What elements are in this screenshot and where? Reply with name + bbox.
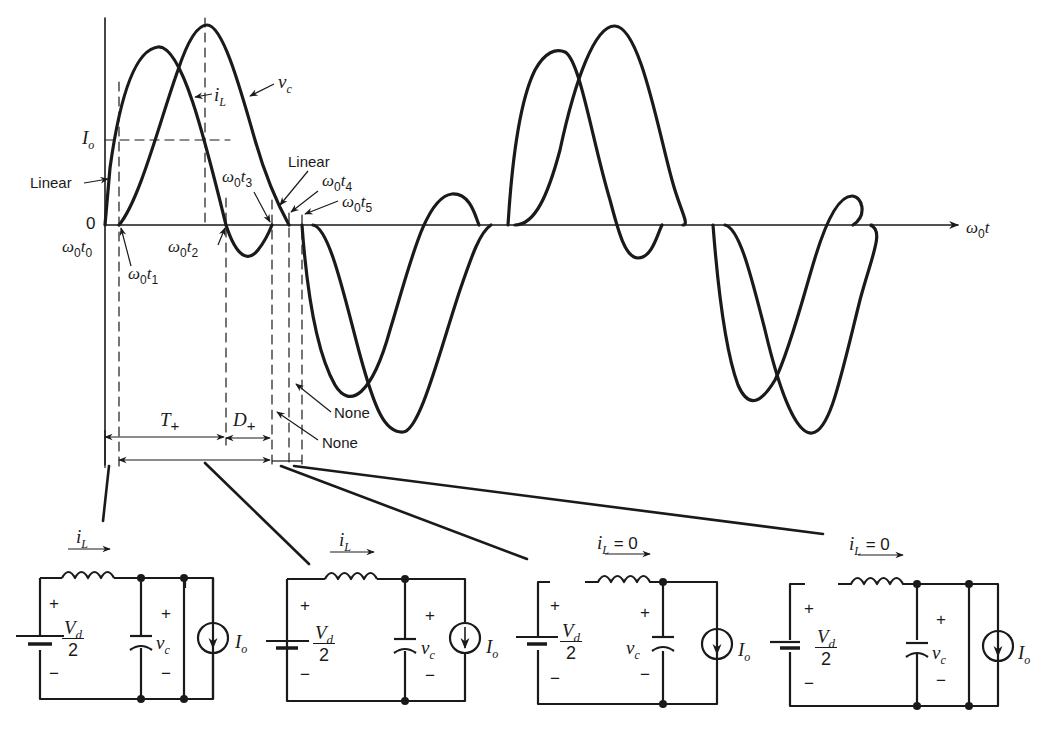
circuit-3-vc-minus: − [640,666,650,683]
circuit-4-plus: + [804,600,814,617]
circuit-3 [516,554,732,704]
circuit-2-minus: − [300,666,310,683]
circuit-2-source-value: Vd2 [313,623,335,664]
circuit-4-vc-minus: − [936,672,946,689]
marker-label-t0: ω0t0 [62,238,92,255]
time-axis-label: ω0t [966,219,989,236]
circuit-2 [266,552,480,701]
circuit-3-vc-plus: + [640,604,650,621]
circuit-3-vc-label: vc [626,638,640,657]
marker-label-t2: ω0t2 [168,238,198,255]
circuit-3-current-label: iL = 0 [597,533,638,552]
circuit-2-vc-label: vc [421,638,435,657]
circuit-3-minus: − [550,670,560,687]
connector-circuit-2 [205,463,309,564]
linear-label-1: Linear [30,175,72,190]
vc-label: vc [278,72,292,91]
none-label-2: None [322,435,358,450]
waveform-diagram [0,0,1056,729]
circuit-3-plus: + [550,597,560,614]
circuit-4-vc-label: vc [932,643,946,662]
vc-curve-3 [515,26,685,225]
circuit-1-minus: − [49,665,59,682]
circuit-2-current-label: iL [339,530,351,549]
iL-curve-4 [713,196,862,401]
circuit-1-vc-minus: − [161,665,171,682]
circuit-4-io-label: Io [1018,643,1030,662]
vc-curve-2 [313,225,491,432]
circuit-4-current-label: iL = 0 [849,534,890,553]
circuit-1-vc-plus: + [161,605,171,622]
iL-curve-3 [508,51,662,258]
marker-label-t4: ω0t4 [322,172,352,189]
circuit-1 [16,549,228,699]
marker-label-t3: ω0t3 [222,168,252,185]
marker-label-t1: ω0t1 [128,265,158,282]
marker-label-t5: ω0t5 [342,193,372,210]
circuit-4-vc-plus: + [936,611,946,628]
iL-label: iL [214,85,226,104]
circuit-1-io-label: Io [235,632,247,651]
zero-label: 0 [86,215,95,232]
circuit-2-vc-plus: + [425,607,435,624]
circuit-1-vc-label: vc [156,633,170,652]
interval-T-plus: T+ [160,410,179,429]
linear-label-2: Linear [288,154,330,169]
circuit-4-minus: − [804,675,814,692]
none-label-1: None [334,405,370,420]
circuit-2-io-label: Io [486,637,498,656]
interval-D-plus: D+ [233,410,256,429]
circuit-2-plus: + [300,597,310,614]
circuit-4-source-value: Vd2 [815,627,837,668]
vc-curve-4 [725,225,877,433]
circuit-1-plus: + [49,595,59,612]
connector-circuit-1 [103,466,109,521]
circuit-1-current-label: iL [76,527,88,546]
circuit-3-source-value: Vd2 [560,621,582,662]
circuit-2-vc-minus: − [425,667,435,684]
circuit-3-io-label: Io [738,640,750,659]
circuit-1-source-value: Vd2 [62,618,84,659]
io-level-label: Io [82,128,94,147]
